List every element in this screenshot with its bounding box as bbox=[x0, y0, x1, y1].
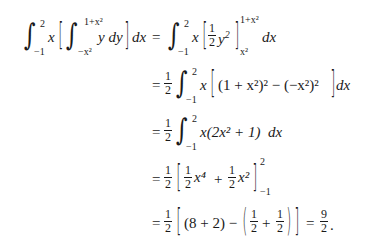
plus: + bbox=[214, 172, 222, 187]
half-fraction: 12 bbox=[164, 117, 172, 143]
line-3-body: x(2x² + 1) bbox=[200, 125, 260, 140]
x-var: x bbox=[200, 78, 207, 93]
right-paren: ) bbox=[287, 206, 292, 238]
left-bracket: [ bbox=[59, 20, 64, 52]
equals-final: = bbox=[306, 216, 314, 231]
right-bracket: ] bbox=[253, 162, 258, 194]
plus: + bbox=[262, 216, 270, 231]
eval-lower-limit: x² bbox=[240, 46, 248, 57]
limit-lower: −1 bbox=[186, 94, 197, 105]
period: . bbox=[330, 218, 334, 233]
limit-lower: −1 bbox=[34, 46, 45, 57]
dx: dx bbox=[132, 30, 146, 45]
line-2-body: (1 + x²)² − (−x²)² bbox=[218, 78, 319, 93]
result-fraction: 92 bbox=[320, 208, 328, 234]
half-fraction: 12 bbox=[276, 208, 284, 234]
dx: dx bbox=[268, 125, 282, 140]
left-bracket: [ bbox=[203, 20, 208, 52]
limit-lower: −1 bbox=[186, 141, 197, 152]
dx: dx bbox=[336, 78, 350, 93]
right-bracket: ] bbox=[235, 20, 240, 52]
x-var: x bbox=[48, 30, 55, 45]
left-bracket: [ bbox=[177, 206, 182, 238]
dx: dx bbox=[262, 30, 276, 45]
limit-lower: −1 bbox=[178, 46, 189, 57]
equals-3: = bbox=[152, 125, 160, 140]
half-fraction: 12 bbox=[164, 70, 172, 96]
limit-upper: 2 bbox=[192, 66, 197, 77]
half-fraction: 12 bbox=[228, 164, 236, 190]
half-fraction: 12 bbox=[184, 164, 192, 190]
limit-upper: 2 bbox=[184, 18, 189, 29]
x-var: x bbox=[192, 30, 199, 45]
right-bracket: ] bbox=[125, 20, 130, 52]
right-bracket: ] bbox=[331, 68, 336, 100]
equals-1: = bbox=[152, 30, 160, 45]
line-5-part-a: (8 + 2) − bbox=[184, 216, 237, 231]
equals-4: = bbox=[152, 172, 160, 187]
limit-upper: 2 bbox=[40, 18, 45, 29]
eval-lower-limit: −1 bbox=[260, 186, 271, 197]
inner-lower-limit: −x² bbox=[78, 46, 92, 57]
limit-upper: 2 bbox=[192, 113, 197, 124]
equals-5: = bbox=[152, 216, 160, 231]
left-bracket: [ bbox=[177, 162, 182, 194]
eval-upper-limit: 1+x² bbox=[240, 14, 259, 25]
inner-integrand: y dy bbox=[98, 30, 123, 45]
x-squared: x² bbox=[238, 170, 249, 185]
half-fraction: 12 bbox=[250, 208, 258, 234]
eval-upper-limit: 2 bbox=[260, 156, 265, 167]
equals-2: = bbox=[152, 78, 160, 93]
half-fraction: 12 bbox=[208, 22, 216, 48]
y-squared: y2 bbox=[218, 30, 230, 47]
inner-upper-limit: 1+x² bbox=[84, 16, 103, 27]
left-bracket: [ bbox=[211, 68, 216, 100]
half-fraction: 12 bbox=[164, 208, 172, 234]
half-fraction: 12 bbox=[164, 164, 172, 190]
right-bracket: ] bbox=[295, 206, 300, 238]
left-paren: ( bbox=[243, 206, 248, 238]
x-fourth: x⁴ bbox=[194, 170, 206, 185]
